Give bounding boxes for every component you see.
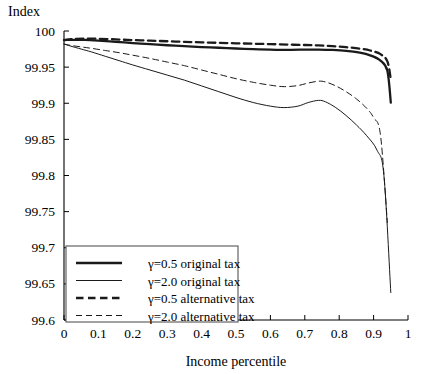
x-tick-label: 0.6	[262, 326, 279, 341]
y-tick-label: 99.95	[25, 60, 56, 75]
x-tick-label: 0.8	[331, 326, 348, 341]
x-tick-label: 0.2	[124, 326, 141, 341]
x-tick-label: 0.1	[90, 326, 107, 341]
x-tick-label: 1	[405, 326, 412, 341]
y-tick-label: 99.6	[31, 313, 55, 328]
legend-label-3: γ=0.5 alternative tax	[147, 291, 255, 306]
y-axis-title: Index	[8, 4, 40, 19]
y-tick-label: 99.75	[25, 204, 56, 219]
legend-label-4: γ=2.0 alternative tax	[147, 309, 255, 324]
x-tick-label: 0.3	[159, 326, 176, 341]
legend-label-1: γ=0.5 original tax	[147, 256, 241, 271]
chart-legend: γ=0.5 original taxγ=2.0 original taxγ=0.…	[66, 246, 255, 324]
x-tick-label: 0.4	[193, 326, 210, 341]
x-axis-title: Income percentile	[186, 354, 287, 369]
legend-label-2: γ=2.0 original tax	[147, 274, 241, 289]
y-tick-label: 99.65	[25, 276, 56, 291]
y-tick-label: 99.9	[31, 96, 55, 111]
x-tick-label: 0.5	[228, 326, 245, 341]
index-vs-income-percentile-line-chart: Index 99.699.6599.799.7599.899.8599.999.…	[0, 0, 424, 374]
y-tick-label: 99.85	[25, 132, 56, 147]
y-tick-label: 99.8	[31, 168, 55, 183]
x-tick-label: 0	[61, 326, 68, 341]
y-tick-label: 99.7	[31, 240, 55, 255]
y-tick-label: 100	[35, 24, 56, 39]
x-tick-label: 0.7	[296, 326, 313, 341]
x-tick-label: 0.9	[365, 326, 382, 341]
chart-figure: Index 99.699.6599.799.7599.899.8599.999.…	[0, 0, 424, 374]
